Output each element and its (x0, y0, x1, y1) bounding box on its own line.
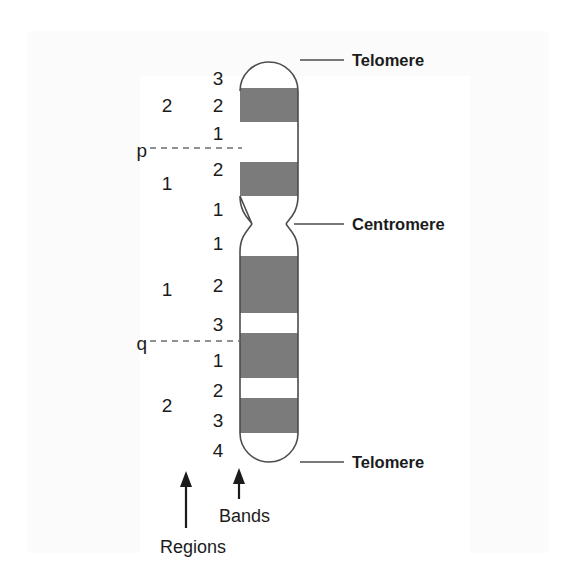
chromosome-figure-svg (0, 0, 576, 586)
chromosome-q-arm (238, 222, 300, 465)
chromosome-p-arm (238, 60, 300, 226)
band-label: 2 (206, 96, 230, 115)
band-label: 2 (206, 160, 230, 179)
p-arm-bands (238, 60, 300, 226)
band-label: 4 (206, 441, 230, 460)
region-label: 1 (155, 280, 179, 299)
band-label: 1 (206, 124, 230, 143)
band-q-light-1 (238, 222, 300, 256)
region-label: 2 (155, 96, 179, 115)
chromosome-diagram-canvas: 3 2 1 2 1 1 2 3 1 2 3 4 2 1 1 2 p q Telo… (0, 0, 576, 586)
band-q-dark-2 (238, 333, 300, 378)
band-label: 1 (206, 234, 230, 253)
band-q-light-3 (238, 378, 300, 398)
band-p-dark-1 (238, 88, 300, 122)
p-arm-label: p (125, 141, 147, 160)
band-label: 1 (206, 200, 230, 219)
telomere-bottom-label: Telomere (352, 454, 424, 471)
regions-arrow (180, 471, 192, 528)
band-label: 1 (206, 351, 230, 370)
band-p-dark-2 (238, 162, 300, 196)
band-p-light-3 (238, 196, 300, 226)
band-p-light-2 (238, 122, 300, 162)
q-arm-bands (238, 222, 300, 465)
band-q-dark-3 (238, 398, 300, 433)
q-arm-label: q (125, 334, 147, 353)
band-label: 3 (206, 315, 230, 334)
band-label: 2 (206, 276, 230, 295)
regions-axis-label: Regions (160, 538, 226, 556)
centromere-label: Centromere (352, 216, 445, 233)
bands-axis-label: Bands (219, 507, 270, 525)
band-q-light-4 (238, 433, 300, 465)
band-label: 2 (206, 381, 230, 400)
region-label: 1 (155, 174, 179, 193)
band-q-light-2 (238, 313, 300, 333)
bands-arrow (233, 468, 245, 499)
band-label: 3 (206, 69, 230, 88)
band-label: 3 (206, 411, 230, 430)
band-q-dark-1 (238, 256, 300, 313)
region-label: 2 (155, 396, 179, 415)
telomere-top-label: Telomere (352, 52, 424, 69)
band-p-light-1 (238, 60, 300, 88)
